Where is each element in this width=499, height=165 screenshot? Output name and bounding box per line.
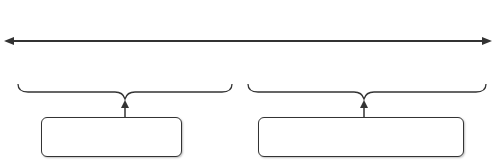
right-brace (248, 84, 486, 99)
right-arrowhead-icon (482, 37, 492, 45)
callout-less-than (41, 117, 182, 157)
left-arrowhead-icon (4, 37, 14, 45)
right-arrow-up-icon (360, 100, 368, 108)
left-arrow-up-icon (121, 100, 129, 108)
callout-greater-or-equal (258, 117, 464, 157)
left-brace (18, 84, 232, 99)
